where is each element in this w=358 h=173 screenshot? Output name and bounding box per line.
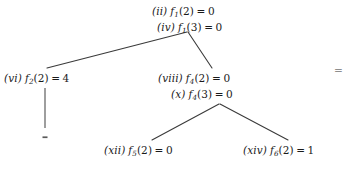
equals-sign: =	[204, 21, 213, 33]
edge-root-to-left	[47, 32, 187, 68]
recursion-tree-diagram: (ii)f1(2)=0 (iv)f1(3)=0 (vi)f2(2)=4 (vii…	[0, 0, 358, 173]
tree-node-mid: (viii)f4(2)=0 (x)f4(3)=0	[158, 72, 233, 104]
function-argument: (2)	[33, 72, 48, 84]
equals-sign: =	[212, 72, 221, 84]
step-tag: (x)	[171, 88, 185, 100]
function-argument: (3)	[197, 88, 212, 100]
left-stub-mark	[43, 136, 48, 138]
node-leaf-right-line-1: (xiv)f6(2)=1	[243, 144, 314, 160]
function-value: 4	[63, 72, 70, 84]
step-tag: (xii)	[104, 144, 125, 156]
tree-node-root: (ii)f1(2)=0 (iv)f1(3)=0	[152, 5, 222, 37]
node-leaf-left-line-1: (xii)f5(2)=0	[104, 144, 173, 160]
edge-mid-to-leaf-right	[220, 104, 288, 140]
step-tag: (xiv)	[243, 144, 267, 156]
equals-sign: =	[197, 5, 206, 17]
function-argument: (2)	[194, 72, 209, 84]
edge-root-to-mid	[188, 32, 212, 68]
step-tag: (ii)	[152, 5, 167, 17]
function-argument: (2)	[137, 144, 152, 156]
step-tag: (viii)	[158, 72, 183, 84]
equals-sign: =	[215, 88, 224, 100]
equals-sign: =	[51, 72, 60, 84]
node-mid-line-1: (viii)f4(2)=0	[158, 72, 233, 88]
node-mid-line-2: (x)f4(3)=0	[158, 88, 233, 104]
edge-mid-to-leaf-left	[152, 104, 219, 140]
function-value: 0	[223, 72, 230, 84]
node-root-line-1: (ii)f1(2)=0	[152, 5, 222, 21]
tree-node-left: (vi)f2(2)=4	[4, 72, 69, 88]
node-left-line-1: (vi)f2(2)=4	[4, 72, 69, 88]
node-root-line-2: (iv)f1(3)=0	[152, 21, 222, 37]
function-argument: (2)	[179, 5, 194, 17]
step-tag: (iv)	[157, 21, 175, 33]
equals-sign: =	[155, 144, 164, 156]
function-value: 0	[166, 144, 173, 156]
tree-node-leaf-left: (xii)f5(2)=0	[104, 144, 173, 160]
function-argument: (3)	[186, 21, 201, 33]
function-value: 0	[208, 5, 215, 17]
function-value: 0	[226, 88, 233, 100]
step-tag: (vi)	[4, 72, 22, 84]
trailing-equals-symbol: =	[334, 64, 343, 76]
function-value: 1	[308, 144, 315, 156]
tree-node-leaf-right: (xiv)f6(2)=1	[243, 144, 314, 160]
function-argument: (2)	[278, 144, 293, 156]
function-value: 0	[216, 21, 223, 33]
equals-sign: =	[296, 144, 305, 156]
